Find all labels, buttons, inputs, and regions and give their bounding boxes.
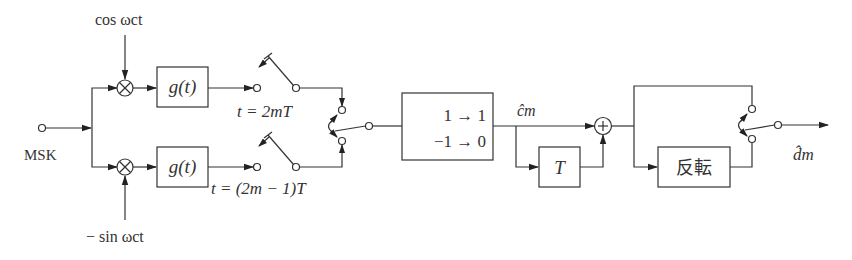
split-wire-lower xyxy=(92,128,117,167)
delay-label: T xyxy=(554,157,566,178)
sampler-to-selector-lower xyxy=(300,145,343,167)
sampling-switch-upper xyxy=(254,53,300,92)
filter-label-lower: g(t) xyxy=(169,156,196,178)
selector-switch xyxy=(329,107,373,145)
branch-to-delay xyxy=(516,126,538,167)
sin-carrier-label: − sin ωct xyxy=(86,228,144,245)
multiplier-upper xyxy=(117,80,133,96)
cos-carrier-label: cos ωct xyxy=(95,11,143,28)
filter-label-upper: g(t) xyxy=(169,76,196,98)
c-hat-label: ĉm xyxy=(517,102,536,119)
sampling-label-upper: t = 2mT xyxy=(237,102,293,121)
input-terminal xyxy=(39,125,46,132)
adder xyxy=(595,118,612,135)
split-wire-upper xyxy=(92,88,117,128)
delay-to-adder xyxy=(580,135,603,167)
mapping-line-1: 1 → 1 xyxy=(444,106,487,125)
multiplier-lower xyxy=(117,159,133,175)
sampling-label-lower: t = (2m − 1)T xyxy=(211,179,307,198)
msk-demodulator-diagram: MSK cos ωct − sin ωct g(t) g(t) t = 2mT xyxy=(0,0,852,260)
branch-to-invert xyxy=(634,126,657,167)
output-selector-switch xyxy=(739,106,782,143)
sampling-switch-lower xyxy=(254,132,300,171)
invert-to-selector xyxy=(730,143,752,167)
invert-label: 反転 xyxy=(676,158,712,178)
sampler-to-selector-upper xyxy=(300,88,343,106)
input-label: MSK xyxy=(24,147,57,163)
bypass-wire xyxy=(634,86,752,126)
output-label: d̂m xyxy=(793,145,814,164)
mapping-line-2: −1 → 0 xyxy=(434,132,486,151)
